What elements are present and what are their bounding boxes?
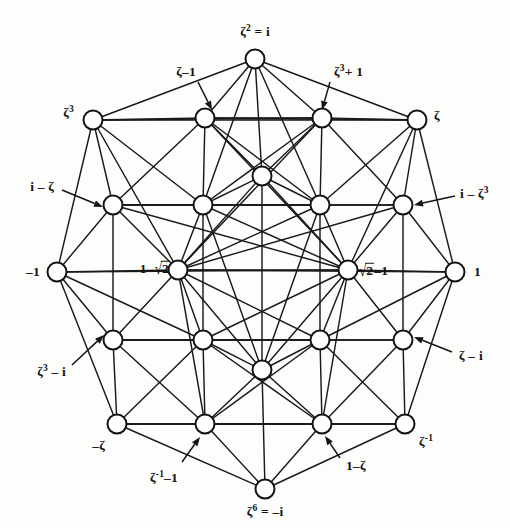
vertex-label-top: ζ2 = i: [240, 25, 270, 39]
graph-edge: [348, 205, 403, 270]
graph-canvas: [0, 0, 510, 528]
graph-edge: [113, 118, 205, 205]
leader-i-minus-zeta3-arrowhead: [414, 200, 424, 207]
graph-edge: [178, 205, 403, 270]
graph-node-g33[interactable]: [394, 331, 413, 350]
graph-edge: [348, 120, 417, 270]
graph-node-lr[interactable]: [396, 415, 415, 434]
nodes-layer: [48, 50, 465, 499]
vertex-label-upper-right: ζ: [434, 109, 440, 123]
graph-node-g10[interactable]: [104, 196, 123, 215]
vertex-label-inner-right: √2–1: [358, 263, 388, 278]
graph-edge: [265, 424, 405, 489]
graph-edge: [405, 272, 455, 424]
graph-node-g01[interactable]: [313, 109, 332, 128]
vertex-label-right: 1: [474, 265, 481, 279]
leader-i-minus-zeta-arrowhead: [93, 200, 103, 207]
vertex-label-lower-right: ζ-1: [419, 435, 433, 449]
graph-edge: [117, 424, 265, 489]
leader-1-minus-zeta-arrowhead: [325, 436, 333, 445]
graph-node-g30[interactable]: [104, 331, 123, 350]
graph-edge: [203, 205, 348, 270]
graph-edge: [262, 176, 348, 270]
graph-node-ul[interactable]: [84, 111, 103, 130]
graph-edge: [403, 120, 417, 205]
leader-zeta-minus-i: [422, 340, 452, 352]
graph-edge: [113, 340, 117, 424]
vertex-label-lower-left: –ζ: [92, 439, 105, 453]
graph-edge: [320, 120, 417, 205]
leader-i-minus-zeta3: [423, 196, 455, 203]
vertex-label-mid-lower-left: ζ3 – i: [37, 365, 66, 379]
graph-edge: [265, 424, 322, 489]
graph-node-top[interactable]: [246, 50, 265, 69]
vertex-label-top-left-inner: ζ–1: [176, 65, 196, 79]
graph-node-g13[interactable]: [394, 196, 413, 215]
graph-node-g31[interactable]: [194, 331, 213, 350]
graph-edge: [178, 176, 262, 270]
graph-node-g41[interactable]: [313, 415, 332, 434]
graph-edge: [348, 270, 403, 340]
vertex-label-bottom-right-inner: 1–ζ: [346, 459, 366, 473]
graph-node-g11[interactable]: [194, 196, 213, 215]
graph-edge: [255, 59, 322, 118]
graph-node-g00[interactable]: [196, 109, 215, 128]
graph-edge: [203, 118, 205, 205]
graph-node-g40[interactable]: [196, 415, 215, 434]
graph-edge: [320, 118, 322, 205]
graph-edge: [178, 270, 262, 370]
vertex-label-bottom-left-inner: ζ-1–1: [150, 471, 178, 485]
graph-node-ur[interactable]: [408, 111, 427, 130]
vertex-label-mid-lower-right: ζ – i: [459, 349, 483, 363]
vertex-label-upper-left: ζ3: [63, 106, 74, 120]
graph-node-bot[interactable]: [256, 480, 275, 499]
graph-edge: [93, 59, 255, 120]
graph-edge: [320, 205, 348, 270]
graph-node-ml[interactable]: [48, 263, 67, 282]
graph-edge: [320, 340, 322, 424]
graph-node-cBot[interactable]: [253, 361, 272, 380]
vertex-label-top-right-inner: ζ3+ 1: [334, 65, 363, 79]
graph-edge: [262, 370, 322, 424]
graph-node-mr[interactable]: [446, 263, 465, 282]
figure-root: ζ2 = iζ–1ζ3+ 1ζ3ζi – ζi – ζ3–111–√2√2–1ζ…: [0, 0, 510, 528]
graph-edge: [113, 270, 178, 340]
leader-zeta3-minus-i: [72, 341, 97, 365]
leader-zeta-minus-1: [198, 82, 208, 102]
graph-edge: [403, 272, 455, 340]
graph-edge: [178, 118, 322, 270]
leader-zeta-minus-i-arrowhead: [414, 337, 424, 343]
vertex-label-left: –1: [26, 265, 40, 279]
graph-edge: [93, 120, 178, 270]
graph-edge: [57, 272, 113, 340]
graph-edge: [320, 272, 455, 340]
vertex-label-inner-left: 1–√2: [140, 261, 170, 276]
graph-node-ll[interactable]: [108, 415, 127, 434]
graph-node-g21[interactable]: [339, 261, 358, 280]
graph-node-g20[interactable]: [169, 261, 188, 280]
graph-edge: [403, 340, 405, 424]
graph-edge: [262, 370, 265, 489]
graph-node-cTop[interactable]: [253, 167, 272, 186]
leader-i-minus-zeta: [62, 190, 95, 204]
vertex-label-bottom: ζ6 = –i: [247, 505, 284, 519]
vertex-label-mid-upper-right: i – ζ3: [460, 187, 489, 201]
leader-zeta-inv-minus-1-arrowhead: [192, 437, 200, 446]
graph-edge: [57, 272, 203, 340]
graph-edge: [320, 270, 348, 340]
graph-edge: [205, 424, 265, 489]
vertex-label-mid-upper-left: i – ζ: [30, 180, 54, 194]
graph-node-g12[interactable]: [311, 196, 330, 215]
graph-edge: [417, 120, 455, 272]
graph-node-g32[interactable]: [311, 331, 330, 350]
graph-edge: [117, 340, 203, 424]
graph-edge: [205, 370, 262, 424]
